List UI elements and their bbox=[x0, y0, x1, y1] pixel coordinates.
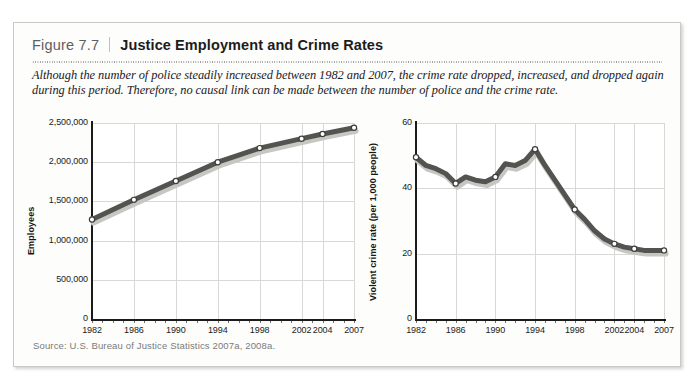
chart-violent-crime-rate: Violent crime rate (per 1,000 people)020… bbox=[362, 115, 680, 337]
data-point-marker bbox=[493, 174, 498, 179]
data-point-marker bbox=[320, 131, 325, 136]
data-point-marker bbox=[215, 160, 220, 165]
figure-title-divider bbox=[109, 37, 110, 52]
data-point-marker bbox=[131, 197, 136, 202]
data-point-marker bbox=[413, 155, 418, 160]
data-point-marker bbox=[572, 207, 577, 212]
figure-caption: Although the number of police steadily i… bbox=[32, 68, 668, 98]
figure-header: Figure 7.7 Justice Employment and Crime … bbox=[32, 35, 383, 53]
data-series-line bbox=[20, 115, 365, 337]
data-point-marker bbox=[661, 248, 666, 253]
data-series-line bbox=[362, 115, 680, 337]
data-point-marker bbox=[532, 147, 537, 152]
series-shadow-path bbox=[94, 131, 356, 223]
data-point-marker bbox=[173, 178, 178, 183]
data-point-marker bbox=[453, 181, 458, 186]
chart-justice-employment: Employees0500,0001,000,0001,500,0002,000… bbox=[20, 115, 365, 337]
charts-row: Employees0500,0001,000,0001,500,0002,000… bbox=[14, 115, 682, 337]
data-point-marker bbox=[299, 136, 304, 141]
figure-source: Source: U.S. Bureau of Justice Statistic… bbox=[33, 340, 275, 351]
data-point-marker bbox=[612, 241, 617, 246]
data-point-marker bbox=[257, 145, 262, 150]
figure-number: Figure 7.7 bbox=[32, 37, 99, 53]
page-bleed-strip bbox=[0, 0, 697, 14]
data-point-marker bbox=[89, 217, 94, 222]
data-point-marker bbox=[351, 125, 356, 130]
figure-panel: Figure 7.7 Justice Employment and Crime … bbox=[13, 22, 681, 367]
series-shadow-path bbox=[418, 152, 666, 253]
data-point-marker bbox=[632, 246, 637, 251]
dotted-rule-divider bbox=[32, 61, 662, 63]
figure-title: Justice Employment and Crime Rates bbox=[120, 37, 383, 53]
series-main-path bbox=[416, 149, 664, 250]
